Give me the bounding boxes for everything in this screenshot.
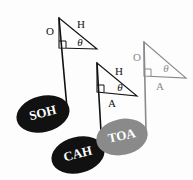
soh-triangle-label-opposite: O (46, 25, 54, 37)
sohcahtoa-svg: OHθHθAOθASOHCAHTOA (0, 0, 193, 180)
toa-triangle-label-adjacent: A (156, 80, 164, 92)
cah-triangle-label-adjacent: A (108, 97, 116, 109)
cah-triangle-label-theta: θ (117, 81, 123, 93)
sohcahtoa-figure: OHθHθAOθASOHCAHTOA (0, 0, 193, 180)
soh-triangle-label-theta: θ (77, 36, 83, 48)
soh-triangle-label-hypotenuse: H (77, 18, 85, 30)
toa-triangle-label-opposite: O (133, 51, 141, 63)
cah-triangle-label-hypotenuse: H (115, 65, 123, 77)
toa-triangle-label-theta: θ (163, 62, 169, 74)
